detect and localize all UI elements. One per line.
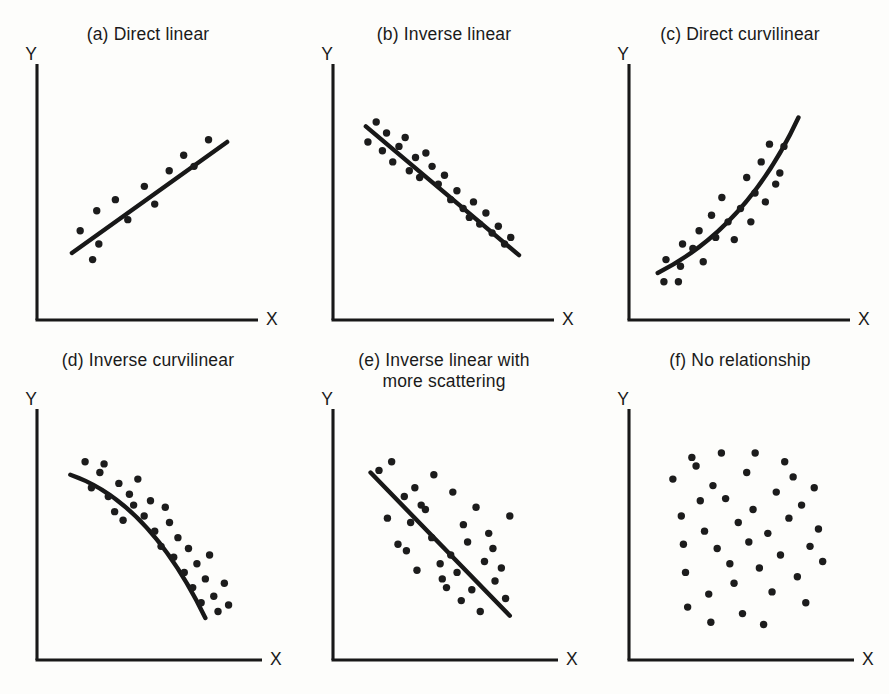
data-point — [416, 174, 423, 181]
data-point — [221, 580, 228, 587]
data-point — [174, 534, 181, 541]
data-point — [677, 263, 684, 270]
data-point — [93, 207, 100, 214]
data-point — [701, 527, 708, 534]
data-point — [406, 167, 413, 174]
panel-f: (f) No relationship YX — [592, 347, 888, 694]
panel-b: (b) Inverse linear YX — [296, 0, 592, 347]
panel-c: (c) Direct curvilinear YX — [592, 0, 888, 347]
data-point — [449, 488, 456, 495]
data-point — [389, 158, 396, 165]
data-point — [697, 497, 704, 504]
data-point — [749, 506, 756, 513]
data-point — [130, 501, 137, 508]
data-point — [464, 538, 471, 545]
data-point — [798, 501, 805, 508]
data-point — [190, 163, 197, 170]
data-point — [481, 558, 488, 565]
data-point — [96, 469, 103, 476]
data-point — [695, 227, 702, 234]
data-point — [460, 521, 467, 528]
data-point — [708, 212, 715, 219]
data-point — [447, 196, 454, 203]
x-axis-label: X — [566, 649, 578, 669]
data-point — [764, 530, 771, 537]
data-point — [436, 560, 443, 567]
data-point — [166, 167, 173, 174]
data-point — [739, 610, 746, 617]
data-point — [785, 514, 792, 521]
data-point — [151, 200, 158, 207]
data-point — [428, 534, 435, 541]
data-point — [777, 551, 784, 558]
data-point — [401, 493, 408, 500]
data-point — [705, 590, 712, 597]
data-point — [88, 484, 95, 491]
data-point — [680, 540, 687, 547]
data-point — [453, 187, 460, 194]
data-point — [722, 495, 729, 502]
data-point — [502, 595, 509, 602]
data-point — [760, 621, 767, 628]
plot-d: YX — [0, 347, 296, 694]
data-point — [95, 240, 102, 247]
x-axis-label: X — [270, 649, 282, 669]
data-point — [395, 143, 402, 150]
data-point — [189, 584, 196, 591]
data-point — [89, 256, 96, 263]
y-axis-label: Y — [321, 389, 333, 409]
data-point — [776, 169, 783, 176]
y-axis-label: Y — [617, 44, 629, 64]
data-point — [401, 134, 408, 141]
data-point — [688, 454, 695, 461]
data-point — [458, 597, 465, 604]
data-point — [730, 580, 737, 587]
data-point — [488, 229, 495, 236]
data-point — [162, 504, 169, 511]
data-point — [193, 560, 200, 567]
data-point — [781, 458, 788, 465]
data-point — [501, 240, 508, 247]
data-point — [506, 512, 513, 519]
data-point — [745, 538, 752, 545]
x-axis-label: X — [562, 309, 574, 329]
data-point — [682, 569, 689, 576]
data-point — [119, 517, 126, 524]
data-point — [422, 149, 429, 156]
data-point — [375, 467, 382, 474]
data-point — [364, 138, 371, 145]
y-axis-label: Y — [617, 389, 629, 409]
data-point — [684, 603, 691, 610]
data-point — [700, 258, 707, 265]
data-point — [197, 599, 204, 606]
data-point — [482, 209, 489, 216]
data-point — [140, 512, 147, 519]
data-point — [689, 245, 696, 252]
data-point — [447, 551, 454, 558]
y-axis-label: Y — [25, 389, 37, 409]
data-point — [430, 471, 437, 478]
data-point — [126, 491, 133, 498]
data-point — [147, 497, 154, 504]
data-point — [737, 205, 744, 212]
data-point — [115, 480, 122, 487]
data-point — [751, 189, 758, 196]
data-point — [768, 588, 775, 595]
data-point — [210, 593, 217, 600]
data-point — [735, 519, 742, 526]
data-point — [675, 278, 682, 285]
data-point — [76, 227, 83, 234]
data-point — [811, 484, 818, 491]
data-point — [495, 223, 502, 230]
data-point — [472, 504, 479, 511]
data-point — [372, 118, 379, 125]
y-axis-label: Y — [25, 44, 37, 64]
data-point — [181, 569, 188, 576]
data-point — [747, 218, 754, 225]
panel-a: (a) Direct linear YX — [0, 0, 296, 347]
data-point — [443, 584, 450, 591]
data-point — [794, 573, 801, 580]
data-point — [112, 196, 119, 203]
data-point — [105, 493, 112, 500]
data-point — [170, 554, 177, 561]
